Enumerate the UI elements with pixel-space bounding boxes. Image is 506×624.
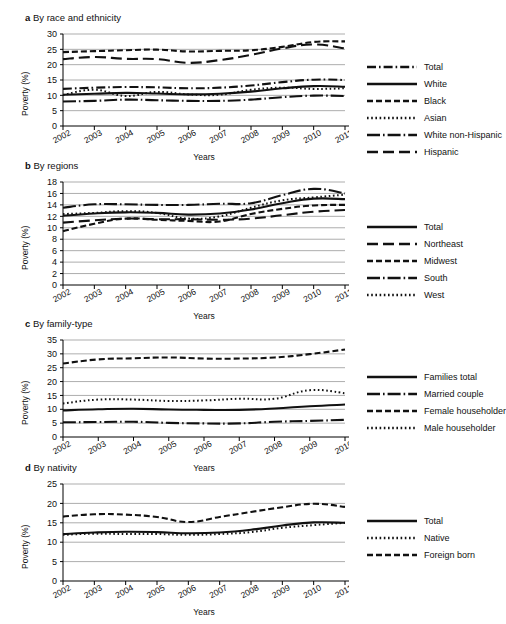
x-axis-label-c: Years	[63, 463, 345, 473]
legend-item[interactable]: South	[366, 271, 463, 285]
legend-item[interactable]: Hispanic	[366, 145, 502, 159]
x-tick-label: 2010	[302, 582, 324, 600]
y-tick-label: 14	[47, 200, 57, 210]
legend-item[interactable]: Total	[366, 60, 502, 74]
plot-area-a: 0510152025302002200320042005200620072008…	[29, 28, 349, 152]
legend-label: White non-Hispanic	[424, 129, 502, 141]
x-tick-label: 2011	[333, 287, 349, 305]
legend-line-icon	[366, 146, 418, 158]
x-axis-label-a: Years	[63, 152, 345, 162]
x-tick-label: 2008	[262, 438, 284, 456]
y-tick-label: 35	[47, 335, 57, 345]
series-line	[63, 41, 345, 52]
legend-line-icon	[366, 289, 418, 301]
legend-item[interactable]: White	[366, 77, 502, 91]
y-tick-label: 15	[47, 391, 57, 401]
legend-item[interactable]: Families total	[366, 370, 506, 384]
legend-line-icon	[366, 78, 418, 90]
y-tick-label: 5	[52, 418, 57, 428]
y-tick-label: 0	[52, 432, 57, 442]
legend-label: Northeast	[424, 238, 463, 250]
legend-item[interactable]: Married couple	[366, 387, 506, 401]
y-tick-label: 2	[52, 269, 57, 279]
panel-title-text-c: By family-type	[33, 318, 93, 329]
legend-item[interactable]: Total	[366, 220, 463, 234]
legend-label: Total	[424, 221, 443, 233]
series-line	[63, 44, 345, 62]
x-tick-label: 2011	[333, 583, 349, 601]
x-tick-label: 2003	[82, 582, 104, 600]
plot-area-d: 0510152025200220032004200520062007200820…	[29, 478, 349, 607]
x-tick-label: 2008	[239, 286, 261, 304]
x-tick-label: 2003	[82, 286, 104, 304]
y-tick-label: 4	[52, 257, 57, 267]
y-tick-label: 25	[47, 479, 57, 489]
legend-line-icon	[366, 405, 418, 417]
legend-item[interactable]: Midwest	[366, 254, 463, 268]
x-tick-label: 2009	[270, 582, 292, 600]
legend-label: Male householder	[424, 422, 496, 434]
x-tick-label: 2007	[208, 127, 230, 145]
legend-item[interactable]: Northeast	[366, 237, 463, 251]
legend-d: TotalNativeForeign born	[366, 514, 475, 565]
legend-item[interactable]: Asian	[366, 111, 502, 125]
series-line	[63, 205, 345, 231]
legend-line-icon	[366, 112, 418, 124]
legend-label: West	[424, 289, 444, 301]
x-tick-label: 2004	[114, 582, 136, 600]
legend-a: TotalWhiteBlackAsianWhite non-HispanicHi…	[366, 60, 502, 162]
y-tick-label: 5	[52, 557, 57, 567]
x-tick-label: 2006	[176, 286, 198, 304]
y-tick-label: 20	[47, 499, 57, 509]
x-tick-label: 2004	[114, 127, 136, 145]
legend-item[interactable]: Black	[366, 94, 502, 108]
legend-label: Native	[424, 532, 450, 544]
series-line	[63, 522, 345, 534]
legend-line-icon	[366, 221, 418, 233]
panel-title-text-a: By race and ethnicity	[33, 12, 121, 23]
panel-letter-a: a	[25, 12, 30, 23]
legend-line-icon	[366, 371, 418, 383]
series-line	[63, 390, 345, 404]
y-tick-label: 8	[52, 234, 57, 244]
panel-title-c: c By family-type	[25, 318, 93, 329]
y-tick-label: 10	[47, 404, 57, 414]
series-line	[63, 349, 345, 363]
legend-label: Black	[424, 95, 446, 107]
legend-item[interactable]: Female householder	[366, 404, 506, 418]
x-tick-label: 2008	[239, 127, 261, 145]
legend-label: Female householder	[424, 405, 506, 417]
x-tick-label: 2009	[270, 286, 292, 304]
legend-label: Married couple	[424, 388, 484, 400]
y-tick-label: 10	[47, 537, 57, 547]
legend-item[interactable]: White non-Hispanic	[366, 128, 502, 142]
x-tick-label: 2009	[270, 127, 292, 145]
legend-item[interactable]: Male householder	[366, 421, 506, 435]
legend-c: Families totalMarried coupleFemale house…	[366, 370, 506, 438]
x-tick-label: 2004	[114, 286, 136, 304]
y-tick-label: 20	[47, 60, 57, 70]
legend-item[interactable]: Native	[366, 531, 475, 545]
y-tick-label: 5	[52, 106, 57, 116]
x-tick-label: 2005	[145, 582, 167, 600]
panel-letter-d: d	[25, 462, 31, 473]
legend-label: Foreign born	[424, 549, 475, 561]
x-tick-label: 2003	[86, 438, 108, 456]
legend-item[interactable]: Total	[366, 514, 475, 528]
y-tick-label: 20	[47, 377, 57, 387]
legend-item[interactable]: Foreign born	[366, 548, 475, 562]
y-tick-label: 15	[47, 518, 57, 528]
legend-label: South	[424, 272, 448, 284]
legend-line-icon	[366, 549, 418, 561]
y-tick-label: 18	[47, 177, 57, 187]
y-tick-label: 12	[47, 212, 57, 222]
series-line	[63, 504, 345, 522]
panel-title-text-b: By regions	[33, 160, 78, 171]
x-tick-label: 2006	[176, 582, 198, 600]
x-axis-label-b: Years	[63, 311, 345, 321]
legend-item[interactable]: West	[366, 288, 463, 302]
y-tick-label: 16	[47, 189, 57, 199]
legend-line-icon	[366, 532, 418, 544]
x-tick-label: 2007	[208, 286, 230, 304]
x-tick-label: 2011	[333, 128, 349, 146]
